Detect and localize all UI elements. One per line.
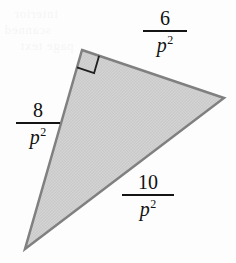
fraction-bar (122, 194, 174, 196)
side-label-left: 8 p2 (16, 100, 60, 147)
denominator-exponent: 2 (150, 197, 156, 211)
denominator-exponent: 2 (40, 125, 46, 139)
denominator-base: p (30, 126, 40, 148)
fraction-bar (143, 30, 187, 32)
denominator-base: p (140, 198, 150, 220)
denominator-base: p (157, 34, 167, 56)
side-label-left-denominator: p2 (16, 126, 60, 147)
geometry-figure: interior scanned page text faint 6 p2 8 … (0, 0, 236, 263)
fraction-bar (16, 122, 60, 124)
side-label-bottom: 10 p2 (122, 172, 174, 219)
side-label-left-numerator: 8 (16, 100, 60, 121)
side-label-top-denominator: p2 (143, 34, 187, 55)
side-label-top-numerator: 6 (143, 8, 187, 29)
side-label-bottom-numerator: 10 (122, 172, 174, 193)
triangle-outline (25, 50, 224, 249)
side-label-bottom-denominator: p2 (122, 198, 174, 219)
denominator-exponent: 2 (167, 33, 173, 47)
side-label-top: 6 p2 (143, 8, 187, 55)
